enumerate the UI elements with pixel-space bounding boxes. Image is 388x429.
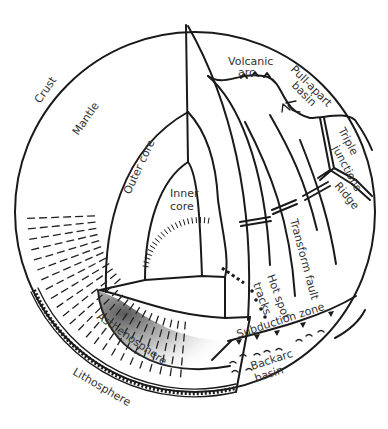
inner-core-right-edge xyxy=(188,162,202,276)
hatch-mark xyxy=(175,223,178,228)
label-inner-core-1: Inner xyxy=(170,187,199,200)
label-volcanic-2: arc xyxy=(238,66,255,79)
wedge-top-edge xyxy=(186,25,188,162)
hatch-mark xyxy=(150,246,155,249)
hatch-mark xyxy=(188,218,189,224)
hatch-mark xyxy=(155,238,160,242)
asthenosphere-ray xyxy=(25,216,95,219)
label-mantle: Mantle xyxy=(70,99,102,137)
earth-diagram: Crust Mantle Outer core Inner core Asthe… xyxy=(0,0,388,429)
hatch-mark xyxy=(164,229,168,234)
asthenosphere-ray xyxy=(29,234,97,250)
asthenosphere-ray xyxy=(26,222,96,229)
label-outer-core: Outer core xyxy=(121,137,158,196)
label-crust: Crust xyxy=(32,74,60,106)
hatch-mark xyxy=(158,235,162,239)
triple-junction-spur xyxy=(318,168,334,180)
hatch-mark xyxy=(192,218,193,224)
inner-core-boundary xyxy=(145,162,188,280)
hatch-mark xyxy=(161,232,165,236)
label-inner-core-2: core xyxy=(170,200,194,213)
hatch-mark xyxy=(152,242,157,245)
hatch-mark xyxy=(144,262,150,263)
hatch-mark xyxy=(171,225,174,230)
hatch-mark xyxy=(143,266,149,267)
subduction-line-2 xyxy=(335,310,365,338)
asthenosphere-ray xyxy=(27,228,96,239)
pull-apart-arrows xyxy=(286,101,300,112)
transform-offset-2 xyxy=(272,200,297,214)
hatch-mark xyxy=(168,227,171,232)
cut-face-top xyxy=(100,276,225,290)
asthenosphere-ray xyxy=(35,247,101,271)
hatch-mark xyxy=(183,219,185,225)
hatch-mark xyxy=(179,221,181,227)
hatch-mark xyxy=(148,249,153,252)
hatch-mark xyxy=(208,218,209,224)
